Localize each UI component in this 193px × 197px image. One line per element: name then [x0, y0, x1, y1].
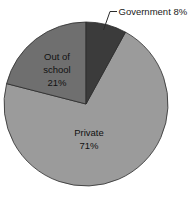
pie-label-government: Government 8%: [119, 6, 188, 17]
pie-chart-canvas: Government 8% Out of school 21% Private …: [0, 0, 193, 197]
pie-chart: Government 8% Out of school 21% Private …: [0, 0, 193, 197]
pie-label-private-value: 71%: [79, 140, 99, 151]
pie-label-private-line1: Private: [74, 127, 104, 138]
pie-label-out-of-school-line1: Out of: [44, 51, 70, 62]
pie-label-out-of-school-value: 21%: [47, 77, 67, 88]
pie-label-out-of-school-line2: school: [43, 64, 70, 75]
